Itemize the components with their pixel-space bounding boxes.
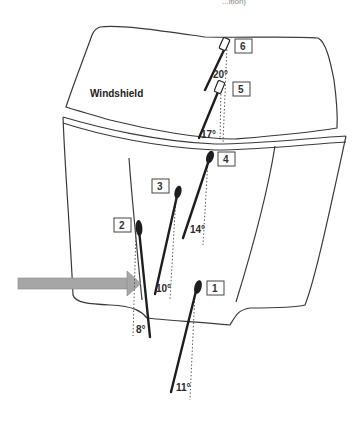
sensor-1-angle: 11° — [176, 382, 191, 393]
sensor-4-angle: 14° — [190, 224, 205, 235]
sensor-1-rod — [171, 291, 196, 392]
vehicle-sensor-diagram: ...ition) Windshield Hood 6 20° 5 17° — [0, 0, 364, 422]
sensor-3-angle: 10° — [156, 283, 171, 294]
sensor-3-rod — [155, 196, 177, 294]
impact-arrow — [18, 271, 141, 296]
sensor-5-label: 5 — [238, 84, 244, 95]
sensor-6-label: 6 — [240, 41, 246, 52]
sensor-1: 1 11° — [171, 279, 224, 400]
sensor-2-label: 2 — [119, 220, 125, 231]
sensor-1-label: 1 — [212, 283, 218, 294]
sensor-3: 3 10° — [152, 179, 183, 300]
sensor-4-label: 4 — [223, 154, 229, 165]
hood-outline — [63, 117, 346, 325]
sensor-3-head — [173, 185, 183, 199]
sensor-6-angle: 20° — [213, 69, 228, 80]
sensor-5-angle: 17° — [201, 129, 216, 140]
sensor-4-head — [204, 150, 215, 165]
windshield-outline — [66, 26, 337, 139]
sensor-5-head — [214, 80, 225, 94]
sensor-4: 4 14° — [183, 150, 235, 245]
sensor-6-head — [219, 37, 230, 51]
hood-crease-right — [236, 146, 275, 302]
sensor-2-angle: 8° — [136, 324, 146, 335]
sensor-3-label: 3 — [157, 181, 163, 192]
top-cut-caption: ...ition) — [222, 0, 246, 6]
sensor-1-head — [193, 279, 204, 294]
sensor-5-reference-line — [220, 87, 221, 140]
sensor-6-reference-line — [223, 46, 227, 142]
windshield-label: Windshield — [90, 88, 143, 99]
